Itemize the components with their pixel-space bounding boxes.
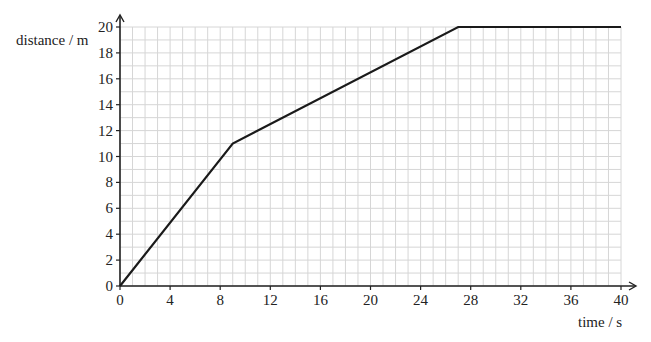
y-tick-label: 10 xyxy=(98,149,113,165)
y-tick-label: 8 xyxy=(106,174,114,190)
x-tick-label: 36 xyxy=(563,292,579,308)
x-tick-label: 12 xyxy=(263,292,278,308)
y-tick-label: 18 xyxy=(98,45,113,61)
y-tick-label: 0 xyxy=(106,278,114,294)
y-axis-label: distance / m xyxy=(16,32,89,48)
x-tick-label: 4 xyxy=(166,292,174,308)
x-tick-label: 0 xyxy=(116,292,124,308)
y-tick-label: 14 xyxy=(98,97,114,113)
distance-time-chart: 048121620242832364002468101214161820 dis… xyxy=(0,0,651,342)
y-tick-label: 4 xyxy=(106,226,114,242)
x-tick-label: 20 xyxy=(363,292,378,308)
y-tick-label: 12 xyxy=(98,123,113,139)
x-tick-label: 28 xyxy=(463,292,478,308)
x-tick-label: 40 xyxy=(614,292,629,308)
ticks: 048121620242832364002468101214161820 xyxy=(98,19,629,308)
x-tick-label: 24 xyxy=(413,292,429,308)
y-tick-label: 20 xyxy=(98,19,113,35)
x-tick-label: 8 xyxy=(216,292,224,308)
x-tick-label: 16 xyxy=(313,292,329,308)
x-tick-label: 32 xyxy=(513,292,528,308)
grid xyxy=(120,27,621,286)
y-tick-label: 2 xyxy=(106,252,114,268)
x-axis-label: time / s xyxy=(578,314,622,330)
y-tick-label: 16 xyxy=(98,71,114,87)
y-tick-label: 6 xyxy=(106,200,114,216)
